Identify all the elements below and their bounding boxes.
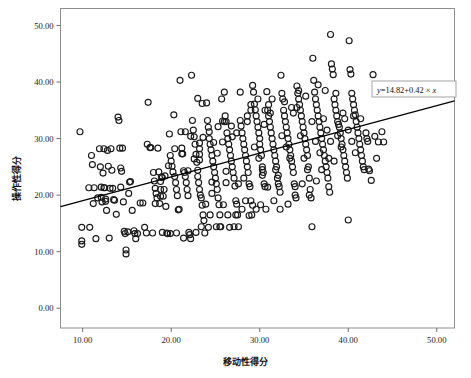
- y-tick-label: 50.00: [34, 21, 53, 31]
- x-axis-title: 移动性得分: [223, 356, 268, 367]
- x-tick-label: 20.00: [162, 335, 181, 345]
- plot-canvas: 10.0020.0030.0040.0050.00 0.0010.0020.00…: [0, 0, 471, 378]
- x-tick-label: 40.00: [339, 335, 358, 345]
- x-tick-label: 30.00: [250, 335, 269, 345]
- y-axis-title: 操作性得分: [11, 156, 22, 201]
- equation-label: y=14.82+0.42 × x: [376, 86, 437, 95]
- equation-annotation: y=14.82+0.42 × x: [372, 81, 456, 97]
- x-tick-label: 50.00: [427, 335, 446, 345]
- y-tick-label: 0.00: [38, 303, 53, 313]
- x-tick-label: 10.00: [73, 335, 92, 345]
- y-tick-label: 40.00: [34, 77, 53, 87]
- y-tick-label: 30.00: [34, 134, 53, 144]
- scatter-plot-figure: 10.0020.0030.0040.0050.00 0.0010.0020.00…: [0, 0, 471, 378]
- y-tick-label: 20.00: [34, 190, 53, 200]
- y-tick-label: 10.00: [34, 247, 53, 257]
